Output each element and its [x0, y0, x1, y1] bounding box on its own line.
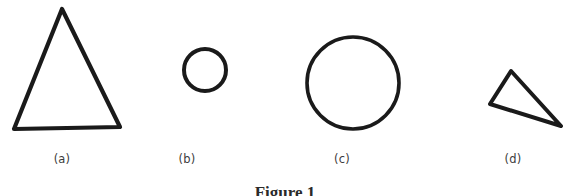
panel-label-a: (a) — [54, 152, 71, 166]
circle-shape-c — [307, 37, 399, 129]
panel-label-c: (c) — [334, 152, 350, 166]
triangle-shape-a — [14, 9, 120, 129]
shapes-canvas — [0, 0, 570, 196]
triangle-shape-d — [490, 71, 561, 126]
panel-label-b: (b) — [179, 152, 196, 166]
figure-page: (a) (b) (c) (d) Figure 1 — [0, 0, 570, 196]
figure-caption: Figure 1 — [255, 183, 316, 196]
circle-shape-b — [184, 49, 226, 91]
panel-label-d: (d) — [505, 152, 522, 166]
